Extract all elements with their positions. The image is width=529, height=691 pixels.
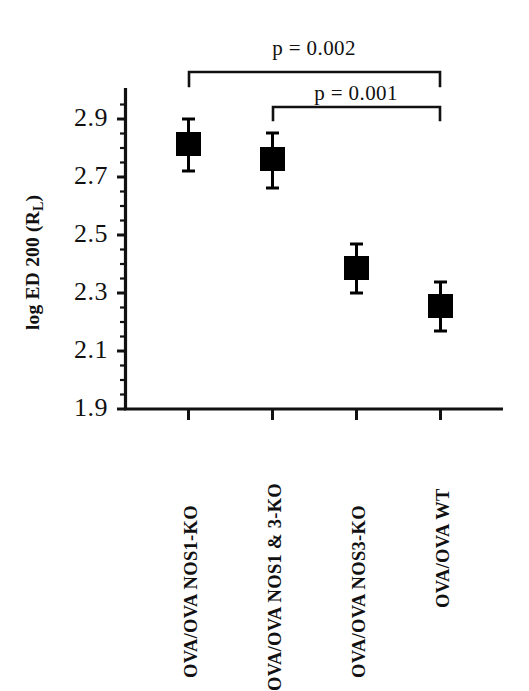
y-axis-title-close: ) [22,195,43,202]
x-category-label-0: OVA/OVA NOS1-KO [181,505,202,678]
significance-bracket-lower [273,107,440,120]
data-point-group-0 [176,119,201,171]
marker-square-0 [176,132,201,156]
data-point-group-3 [428,282,453,331]
y-axis-title-subscript: L [30,201,46,211]
p-value-label-upper: p = 0.002 [249,36,379,61]
y-axis-title: log ED 200 (RL) [22,195,47,330]
y-tick-label-2.5: 2.5 [48,219,108,249]
x-category-label-1: OVA/OVA NOS1 & 3-KO [265,483,286,691]
data-point-group-1 [260,133,285,188]
y-tick-label-2.3: 2.3 [48,277,108,307]
y-tick-label-1.9: 1.9 [48,393,108,423]
x-ticks [189,409,441,420]
marker-square-1 [260,147,285,171]
x-category-label-2: OVA/OVA NOS3-KO [349,505,370,678]
bracket-path-lower [273,107,440,120]
y-tick-label-2.7: 2.7 [48,161,108,191]
x-category-label-3: OVA/OVA WT [433,488,454,608]
marker-square-3 [428,294,453,318]
p-value-label-lower: p = 0.001 [291,81,421,106]
y-axis-title-main: log ED 200 (R [22,211,43,330]
figure-panel: 2.9 2.7 2.5 2.3 2.1 1.9 log ED 200 (RL) … [0,0,529,691]
y-tick-label-2.9: 2.9 [48,103,108,133]
y-tick-label-2.1: 2.1 [48,335,108,365]
marker-square-2 [344,256,369,280]
data-point-group-2 [344,244,369,293]
